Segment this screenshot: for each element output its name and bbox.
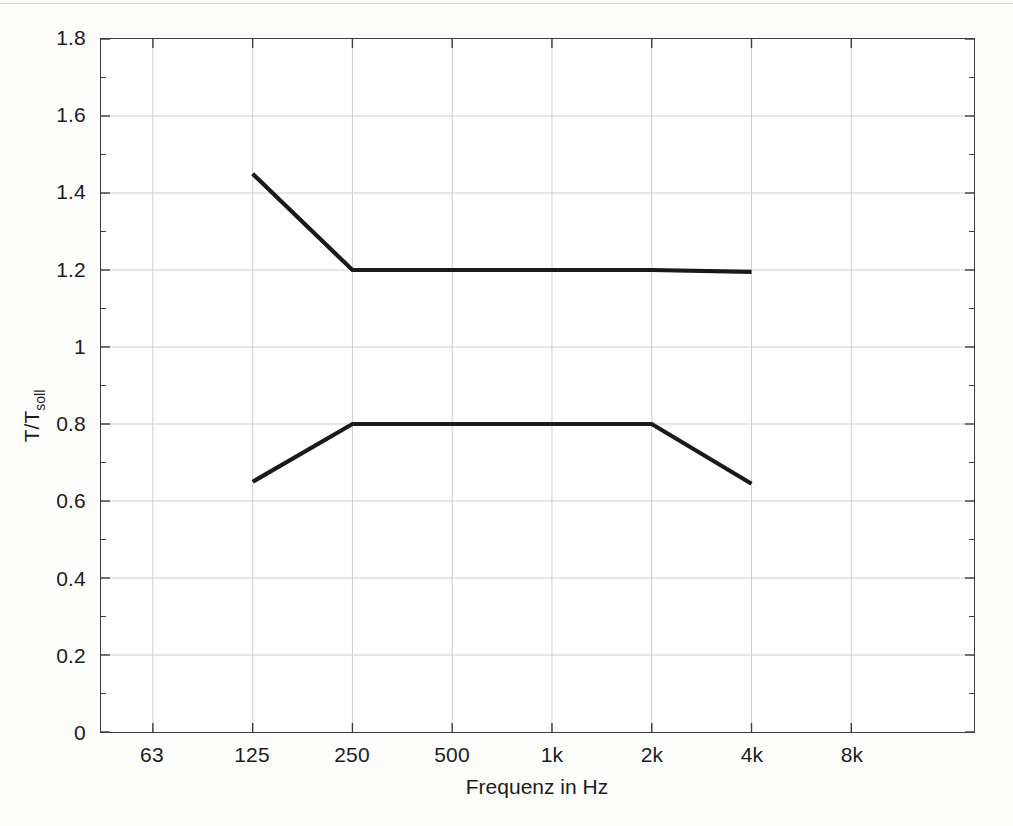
y-tick-label: 0 (74, 721, 86, 745)
x-tick-label: 1k (541, 743, 564, 767)
y-tick-label: 0.6 (56, 489, 86, 513)
y-tick-label: 1.2 (56, 258, 86, 282)
y-tick-label: 1.4 (56, 180, 86, 204)
y-tick-label: 0.8 (56, 412, 86, 436)
data-curves (101, 39, 974, 732)
x-tick-label: 250 (334, 743, 370, 767)
x-tick-label: 63 (140, 743, 164, 767)
y-tick-label: 1.8 (56, 26, 86, 50)
x-tick-label: 8k (841, 743, 864, 767)
y-tick-label: 0.4 (56, 567, 86, 591)
y-tick-label: 1.6 (56, 103, 86, 127)
x-tick-label: 500 (434, 743, 470, 767)
y-tick-label: 0.2 (56, 644, 86, 668)
x-tick-label: 4k (741, 743, 764, 767)
x-tick-label: 125 (234, 743, 270, 767)
figure-canvas: T/Tsoll Frequenz in Hz 00.20.40.60.811.2… (0, 0, 1013, 826)
y-tick-label: 1 (74, 335, 86, 359)
x-tick-label: 2k (641, 743, 664, 767)
plot-area (100, 38, 975, 733)
